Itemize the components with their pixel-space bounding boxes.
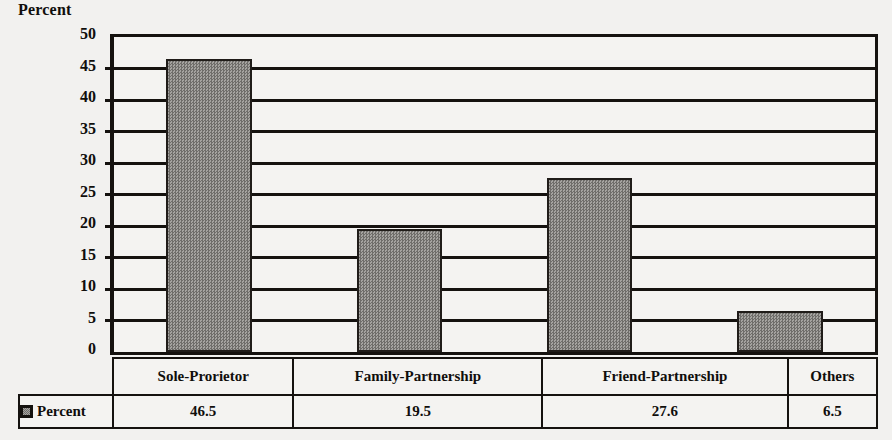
bar-series [114,37,875,352]
bar [547,178,633,352]
y-axis-tick-labels: 50454035302520151050 [0,34,104,355]
y-tick-label: 15 [80,247,96,263]
table-cell-value: 6.5 [788,395,877,428]
table-cell-category: Family-Partnership [293,358,542,395]
y-tick-label: 45 [80,58,96,74]
y-tick-mark [105,225,114,228]
bar-column [495,37,685,352]
table-cell-value: 46.5 [113,395,293,428]
bar-column [114,37,304,352]
data-table: Sole-ProrietorFamily-PartnershipFriend-P… [18,357,878,429]
y-tick-label: 5 [88,310,96,326]
table-row-values: Percent 46.519.527.66.5 [19,395,877,428]
y-tick-label: 40 [80,89,96,105]
bar-column [685,37,875,352]
y-tick-mark [105,193,114,196]
table-cell-value: 19.5 [293,395,542,428]
y-tick-mark [105,99,114,102]
bar [357,229,443,352]
bar [737,311,823,352]
table-corner-blank [19,358,113,395]
y-tick-label: 10 [80,278,96,294]
y-tick-label: 30 [80,152,96,168]
bar-column [304,37,494,352]
legend-cell: Percent [19,395,113,428]
table-cell-value: 27.6 [542,395,788,428]
y-tick-mark [105,162,114,165]
y-tick-mark [105,130,114,133]
y-tick-label: 50 [80,26,96,42]
y-tick-mark [105,319,114,322]
y-tick-label: 25 [80,184,96,200]
table-cell-category: Friend-Partnership [542,358,788,395]
y-tick-mark [105,288,114,291]
bar [166,59,252,352]
y-tick-label: 0 [88,341,96,357]
table-cell-category: Others [788,358,877,395]
y-tick-label: 35 [80,121,96,137]
plot-area [110,34,878,355]
y-tick-label: 20 [80,215,96,231]
y-tick-mark [105,67,114,70]
bar-chart-figure: Percent 50454035302520151050 Sole-Prorie… [0,0,892,440]
legend-swatch-icon [20,405,33,418]
y-axis-title: Percent [18,1,72,19]
table-cell-category: Sole-Prorietor [113,358,293,395]
legend-label: Percent [37,403,86,420]
y-tick-mark [105,256,114,259]
table-row-categories: Sole-ProrietorFamily-PartnershipFriend-P… [19,358,877,395]
